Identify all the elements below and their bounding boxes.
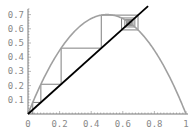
y-tick-label: 0.6 [8,24,24,34]
cobweb-chart: 00.20.40.60.810.10.20.30.40.50.60.7 [0,0,196,133]
plot-area [28,6,186,114]
logistic-curve [28,15,186,114]
tick-labels: 00.20.40.60.810.10.20.30.40.50.60.7 [8,10,189,129]
diagonal-line [28,6,148,114]
y-tick-label: 0.2 [8,81,24,91]
y-tick-label: 0.4 [8,52,24,62]
x-tick-label: 1 [183,119,188,129]
x-tick-label: 0.8 [146,119,162,129]
y-tick-label: 0.5 [8,38,24,48]
x-tick-label: 0 [25,119,30,129]
x-tick-label: 0.6 [115,119,131,129]
y-tick-label: 0.7 [8,10,24,20]
y-tick-label: 0.3 [8,66,24,76]
x-tick-label: 0.4 [83,119,99,129]
x-tick-label: 0.2 [51,119,67,129]
y-tick-label: 0.1 [8,95,24,105]
